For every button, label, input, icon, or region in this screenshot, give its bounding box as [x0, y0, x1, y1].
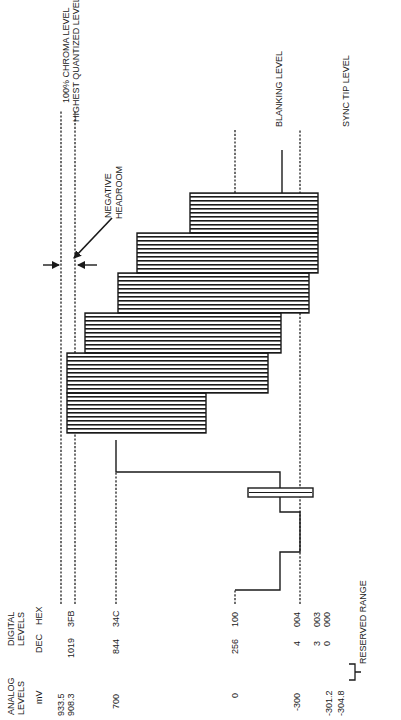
dec-header: DEC — [34, 633, 44, 653]
mv-neg300: -300 — [292, 693, 302, 711]
dec-4: 4 — [292, 641, 302, 646]
color-bar-5 — [137, 233, 318, 273]
reserved-range-label: RESERVED RANGE — [358, 580, 368, 664]
sync-pulse-trace — [116, 440, 300, 590]
negative-headroom-label-1: NEGATIVE — [103, 173, 113, 218]
hex-34c: 34C — [111, 610, 121, 627]
mv-neg304-8: -304.8 — [336, 690, 346, 716]
dec-3: 3 — [312, 641, 322, 646]
dec-0: 0 — [322, 641, 332, 646]
dec-1019: 1019 — [66, 638, 76, 658]
hex-header: HEX — [34, 606, 44, 625]
mv-933-5: 933.5 — [56, 693, 66, 716]
headroom-pointer-icon — [74, 218, 112, 258]
sync-tip-label: SYNC TIP LEVEL — [341, 55, 351, 127]
dec-256: 256 — [230, 639, 240, 654]
color-bar-3 — [85, 313, 281, 353]
analog-unit: mV — [34, 691, 44, 705]
blanking-label: BLANKING LEVEL — [274, 51, 284, 127]
analog-header-2: LEVELS — [16, 681, 26, 715]
hex-004: 004 — [292, 612, 302, 627]
color-bar-2 — [67, 353, 268, 393]
color-bar-1 — [67, 393, 206, 433]
analog-header-1: ANALOG — [6, 677, 16, 715]
mv-908-3: 908.3 — [66, 693, 76, 716]
hex-003: 003 — [312, 612, 322, 627]
dec-844: 844 — [111, 639, 121, 654]
mv-neg301-2: -301.2 — [324, 690, 334, 716]
mv-700: 700 — [111, 694, 121, 709]
mv-0: 0 — [230, 693, 240, 698]
reserved-range-bracket — [349, 664, 361, 680]
chroma-100-label: 100% CHROMA LEVEL — [61, 7, 71, 103]
waveform-diagram: ANALOG LEVELS mV DIGITAL LEVELS DEC HEX … — [0, 0, 401, 720]
digital-header-1: DIGITAL — [6, 612, 16, 646]
negative-headroom-label-2: HEADROOM — [114, 166, 124, 219]
hex-000: 000 — [322, 612, 332, 627]
hex-3fb: 3FB — [66, 610, 76, 627]
digital-header-2: LEVELS — [16, 612, 26, 646]
color-bar-4 — [118, 273, 309, 313]
color-bar-6 — [190, 193, 318, 233]
highest-quantized-label: HIGHEST QUANTIZED LEVEL — [71, 0, 81, 122]
hex-100: 100 — [230, 612, 240, 627]
